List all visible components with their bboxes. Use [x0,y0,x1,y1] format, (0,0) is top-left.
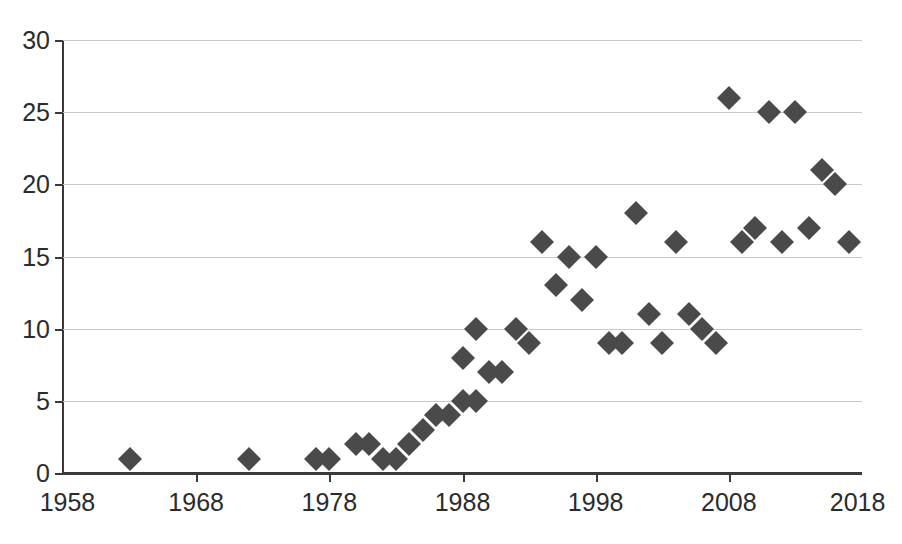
x-tick-label: 2008 [701,490,757,515]
gridline-y-25 [63,112,862,113]
y-tick-mark [55,473,63,475]
x-tick-label: 2018 [830,490,886,515]
x-tick-mark [463,473,465,482]
data-point [783,100,807,124]
data-point [664,230,688,254]
data-point [610,331,634,355]
y-tick-mark [55,184,63,186]
data-point [490,360,514,384]
data-point [757,100,781,124]
data-point [637,302,661,326]
data-point [797,216,821,240]
data-point [544,273,568,297]
data-point [584,244,608,268]
x-tick-mark [729,473,731,482]
gridline-y-15 [63,257,862,258]
x-tick-mark [196,473,198,482]
data-point [717,86,741,110]
x-tick-label: 1978 [302,490,358,515]
data-point [317,447,341,471]
y-tick-label: 20 [22,172,50,197]
y-tick-label: 30 [22,28,50,53]
data-point [237,447,261,471]
x-tick-label: 1958 [40,490,96,515]
x-tick-label: 1988 [435,490,491,515]
data-point [118,447,142,471]
data-point [570,288,594,312]
gridline-y-20 [63,184,862,185]
y-tick-mark [55,329,63,331]
data-point [450,346,474,370]
plot-area: 051015202530 195819681978198819982008201… [63,40,862,473]
y-tick-label: 25 [22,100,50,125]
scatter-chart: 051015202530 195819681978198819982008201… [0,0,902,544]
data-point [837,230,861,254]
x-tick-label: 1998 [568,490,624,515]
data-point [624,201,648,225]
y-tick-label: 5 [36,388,50,413]
y-tick-mark [55,40,63,42]
y-tick-label: 15 [22,244,50,269]
gridline-y-30 [63,40,862,41]
gridline-y-10 [63,329,862,330]
data-point [770,230,794,254]
y-tick-mark [55,112,63,114]
x-tick-mark [596,473,598,482]
y-tick-mark [55,257,63,259]
y-tick-label: 0 [36,461,50,486]
x-tick-label: 1968 [168,490,224,515]
data-point [530,230,554,254]
data-point [464,317,488,341]
data-point [650,331,674,355]
y-tick-label: 10 [22,316,50,341]
x-tick-mark [329,473,331,482]
data-point [557,244,581,268]
y-tick-mark [55,401,63,403]
